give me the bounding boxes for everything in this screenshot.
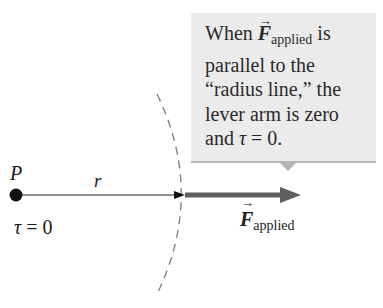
force-vector-symbol: →F [258, 22, 271, 44]
callout-pointer [280, 163, 296, 171]
callout-line-1: When →Fapplied is [205, 21, 366, 53]
callout-box: When →Fapplied is parallel to the “radiu… [191, 13, 376, 163]
callout-line-4: lever arm is zero [205, 102, 366, 127]
radius-label: r [94, 170, 101, 192]
vector-arrow-icon: → [241, 195, 254, 211]
force-vector-symbol: →F [240, 208, 253, 230]
torque-label: τ = 0 [14, 216, 52, 239]
vector-arrow-icon: → [259, 9, 272, 34]
callout-line-3: “radius line,” the [205, 77, 366, 102]
force-label: →Fapplied [240, 208, 295, 234]
force-arrowhead [280, 187, 301, 203]
radius-arrowhead [174, 191, 185, 199]
callout-line-2: parallel to the [205, 53, 366, 78]
pivot-point [10, 189, 23, 202]
point-label: P [10, 162, 22, 185]
callout-line-5: and τ = 0. [205, 126, 366, 151]
